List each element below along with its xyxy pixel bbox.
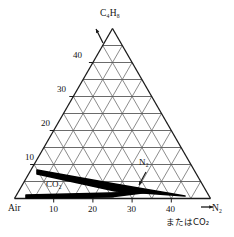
left-axis-tick-40: 40	[73, 51, 82, 60]
left-axis-tick-20: 20	[41, 119, 50, 128]
ternary-plot-canvas	[0, 0, 234, 237]
left-axis-tick-30: 30	[57, 85, 66, 94]
bottom-axis-label-n2: N₂	[212, 204, 222, 214]
bottom-axis-tick-30: 30	[127, 205, 136, 214]
n2-curve-label: N₂	[139, 158, 149, 167]
apex-label-c4h8: C₄H₈	[100, 9, 120, 19]
ternary-diagram-figure: C₄H₈ 40 30 20 10 Air 10 20 30 40 N₂ またはC…	[0, 0, 234, 237]
triangle-outline	[15, 29, 211, 203]
grid-line-right-parallel	[103, 46, 191, 199]
bottom-axis-tick-20: 20	[88, 205, 97, 214]
bottom-axis-origin-air: Air	[8, 204, 21, 214]
bottom-axis-tick-10: 10	[49, 205, 58, 214]
bottom-axis-tick-40: 40	[166, 205, 175, 214]
bottom-axis-label-or-co2: またはCO₂	[166, 218, 209, 227]
left-axis-tick-10: 10	[25, 153, 34, 162]
co2-curve-label: CO₂	[46, 180, 62, 189]
grid-line-left-parallel	[191, 182, 201, 199]
